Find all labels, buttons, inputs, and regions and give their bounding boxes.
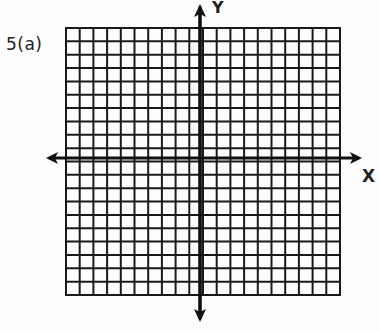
coordinate-grid — [0, 0, 379, 331]
grid-lines — [66, 28, 340, 295]
graph-worksheet: 5(a) Y X — [0, 0, 379, 331]
